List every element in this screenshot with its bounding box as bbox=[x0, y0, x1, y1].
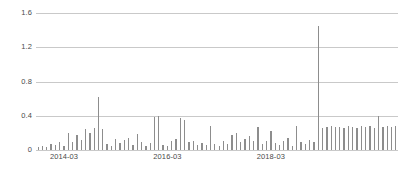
bar bbox=[206, 145, 207, 150]
bar bbox=[339, 127, 340, 150]
bars-layer bbox=[36, 13, 398, 150]
bar bbox=[214, 144, 215, 150]
y-tick-label: 0.8 bbox=[2, 78, 32, 86]
bar bbox=[98, 97, 99, 150]
bar bbox=[89, 133, 90, 150]
bar bbox=[279, 145, 280, 150]
bar bbox=[292, 146, 293, 150]
bar bbox=[137, 134, 138, 150]
bar bbox=[275, 143, 276, 150]
bar bbox=[46, 147, 47, 150]
bar bbox=[171, 141, 172, 150]
bar bbox=[369, 126, 370, 150]
bar bbox=[193, 141, 194, 150]
bar bbox=[387, 126, 388, 150]
bar bbox=[111, 146, 112, 150]
bar bbox=[378, 116, 379, 150]
bar bbox=[50, 144, 51, 150]
bar bbox=[141, 142, 142, 150]
bar bbox=[81, 140, 82, 150]
bar bbox=[68, 133, 69, 150]
gridline-0 bbox=[36, 150, 398, 151]
x-tick-label: 2016-03 bbox=[153, 152, 181, 161]
bar bbox=[236, 133, 237, 150]
bar bbox=[395, 126, 396, 150]
bar bbox=[72, 142, 73, 150]
bar bbox=[300, 142, 301, 150]
bar bbox=[240, 142, 241, 150]
bar bbox=[76, 135, 77, 150]
bar bbox=[249, 136, 250, 150]
bar bbox=[331, 126, 332, 150]
y-tick-label: 0.4 bbox=[2, 112, 32, 120]
bar bbox=[180, 118, 181, 150]
bar bbox=[38, 147, 39, 150]
bar bbox=[201, 143, 202, 150]
bar bbox=[287, 138, 288, 150]
bar bbox=[154, 117, 155, 150]
bar bbox=[85, 129, 86, 150]
bar bbox=[343, 128, 344, 150]
bar bbox=[219, 146, 220, 150]
bar bbox=[266, 141, 267, 150]
bar bbox=[356, 128, 357, 150]
x-axis: 2014-032016-032018-03 bbox=[36, 152, 398, 172]
bar bbox=[145, 146, 146, 150]
bar bbox=[382, 127, 383, 150]
x-tick-label: 2014-03 bbox=[50, 152, 78, 161]
bar bbox=[128, 138, 129, 150]
bar bbox=[175, 139, 176, 150]
y-tick-label: 1.2 bbox=[2, 43, 32, 51]
bar bbox=[106, 144, 107, 150]
bar bbox=[365, 127, 366, 150]
y-axis: 00.40.81.21.6 bbox=[0, 0, 32, 176]
bar bbox=[318, 26, 319, 150]
bar bbox=[231, 135, 232, 150]
bar bbox=[348, 126, 349, 150]
bar bbox=[270, 131, 271, 150]
y-tick-label: 0 bbox=[2, 146, 32, 154]
bar bbox=[188, 142, 189, 150]
bar bbox=[197, 145, 198, 150]
bar bbox=[352, 127, 353, 150]
bar bbox=[210, 126, 211, 150]
plot-area bbox=[36, 13, 398, 150]
y-tick-label: 1.6 bbox=[2, 9, 32, 17]
bar bbox=[309, 140, 310, 150]
bar bbox=[55, 145, 56, 150]
bar bbox=[322, 128, 323, 150]
bar bbox=[167, 146, 168, 150]
bar bbox=[150, 143, 151, 150]
bar bbox=[124, 140, 125, 150]
bar bbox=[313, 142, 314, 150]
bar bbox=[253, 141, 254, 150]
bar bbox=[391, 127, 392, 150]
bar bbox=[59, 142, 60, 150]
bar bbox=[227, 144, 228, 150]
bar bbox=[374, 128, 375, 150]
bar-chart: 00.40.81.21.6 2014-032016-032018-03 bbox=[0, 0, 415, 176]
bar bbox=[119, 143, 120, 150]
bar bbox=[326, 127, 327, 150]
bar bbox=[102, 129, 103, 150]
bar bbox=[42, 146, 43, 150]
bar bbox=[305, 144, 306, 150]
bar bbox=[63, 146, 64, 150]
bar bbox=[162, 145, 163, 150]
bar bbox=[244, 139, 245, 150]
bar bbox=[132, 145, 133, 150]
bar bbox=[223, 141, 224, 150]
bar bbox=[296, 126, 297, 150]
bar bbox=[335, 127, 336, 150]
bar bbox=[283, 141, 284, 150]
bar bbox=[361, 126, 362, 150]
bar bbox=[158, 116, 159, 150]
bar bbox=[115, 139, 116, 150]
bar bbox=[257, 127, 258, 150]
bar bbox=[262, 144, 263, 150]
x-tick-label: 2018-03 bbox=[257, 152, 285, 161]
bar bbox=[184, 120, 185, 150]
bar bbox=[94, 128, 95, 150]
